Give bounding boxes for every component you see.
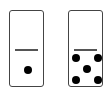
pip-icon <box>72 54 80 62</box>
domino-0-5[interactable] <box>68 10 103 87</box>
pip-icon <box>24 66 32 74</box>
pip-icon <box>94 54 102 62</box>
pip-icon <box>72 76 80 84</box>
domino-divider <box>15 49 38 51</box>
domino-divider <box>74 49 97 51</box>
pip-icon <box>83 65 91 73</box>
pip-icon <box>94 76 102 84</box>
domino-0-1[interactable] <box>9 10 44 87</box>
